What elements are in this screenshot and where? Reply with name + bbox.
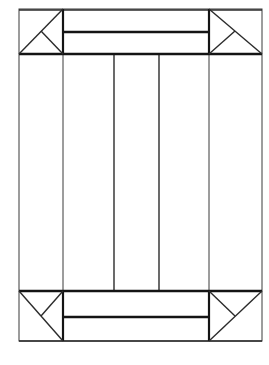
drawing-canvas — [0, 0, 269, 365]
frame-joinery-diagram — [0, 0, 269, 365]
